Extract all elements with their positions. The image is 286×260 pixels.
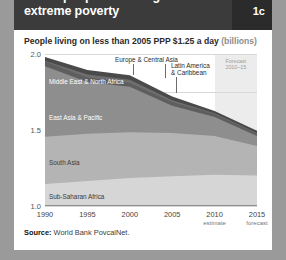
x-axis-tick-label: 1990 xyxy=(37,210,53,219)
chart-subtitle: People living on less than 2005 PPP $1.2… xyxy=(24,36,268,46)
source-text: World Bank PovcalNet. xyxy=(54,228,130,237)
x-axis-tick-label: 2005 xyxy=(164,210,180,219)
y-axis-tick-label: 1.5 xyxy=(31,126,41,135)
x-axis-tick-label: 1995 xyxy=(79,210,95,219)
series-label-latin-america-line1: Latin America xyxy=(171,62,210,69)
x-axis-tick-sublabel: forecast xyxy=(246,220,267,226)
series-label-europe-central-asia: Europe & Central Asia xyxy=(115,56,178,63)
figure-number-badge: 1c xyxy=(232,0,272,30)
series-label-sub-saharan-africa: Sub-Saharan Africa xyxy=(49,193,104,200)
chart-subtitle-unit: (billions) xyxy=(221,36,257,46)
y-axis-tick-label: 2.0 xyxy=(31,50,41,59)
figure-card: Fewer people are living in extreme pover… xyxy=(14,0,272,250)
gridline: 0.0 xyxy=(45,206,257,207)
leader-line-europe-central-asia-2 xyxy=(165,64,166,78)
source-label: Source: xyxy=(24,228,52,237)
leader-line-latin-america xyxy=(176,77,177,93)
x-axis-tick-label: 2000 xyxy=(122,210,138,219)
chart-card: People living on less than 2005 PPP $1.2… xyxy=(14,30,272,250)
leader-line-europe-central-asia xyxy=(133,64,134,75)
series-label-south-asia: South Asia xyxy=(49,159,80,166)
axis-baseline xyxy=(45,205,257,206)
x-axis-tick-label: 2015forecast xyxy=(246,210,267,226)
stacked-area-series xyxy=(45,54,257,206)
series-label-east-asia-pacific: East Asia & Pacific xyxy=(49,114,102,121)
figure-header: Fewer people are living in extreme pover… xyxy=(14,0,272,30)
series-label-latin-america-line2: & Caribbean xyxy=(171,69,207,76)
figure-number-label: 1c xyxy=(253,5,265,17)
series-label-middle-east-north-africa: Middle East & North Africa xyxy=(49,78,124,85)
series-label-latin-america-caribbean: Latin America & Caribbean xyxy=(171,62,210,77)
plot-area: Forecast 2010–15 0.00.51.01.52.0 Europe … xyxy=(45,54,257,206)
x-axis-tick-sublabel: estimate xyxy=(203,220,226,226)
source-note: Source: World Bank PovcalNet. xyxy=(24,228,129,237)
x-axis-tick-label: 2010estimate xyxy=(203,210,226,226)
page-title: Fewer people are living in extreme pover… xyxy=(24,0,219,19)
chart-subtitle-text: People living on less than 2005 PPP $1.2… xyxy=(24,36,219,46)
